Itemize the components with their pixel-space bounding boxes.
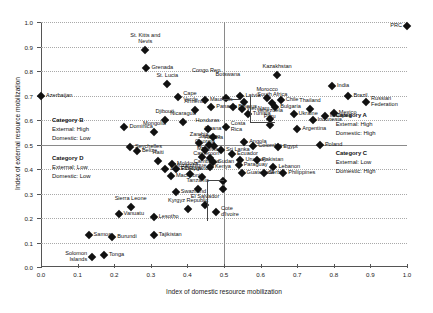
x-tick-label: 0.1 [73, 271, 82, 278]
data-point-label: Vanuatu [124, 211, 144, 217]
x-tick [78, 264, 79, 268]
category-b-external: External: High [52, 125, 91, 134]
data-point-label: Haiti [153, 150, 164, 156]
data-point [293, 125, 301, 133]
data-point-label: Argentina [302, 126, 326, 132]
reference-line-horizontal [41, 145, 407, 146]
y-tick-label: 0.1 [24, 239, 33, 246]
category-a-title: Category A [336, 111, 376, 120]
plot-area: 0.00.10.20.30.40.50.60.70.80.91.00.00.10… [41, 22, 407, 267]
data-point-label: Ukraine [299, 111, 318, 117]
category-d-external: External: Low [52, 163, 91, 172]
x-tick-label: 0.3 [146, 271, 155, 278]
data-point-label: Uganda [192, 166, 212, 172]
data-point [279, 169, 287, 177]
x-tick-label: 0.6 [256, 271, 265, 278]
category-a-domestic: Domestic: High [336, 129, 376, 138]
annotation-category-c: Category C External: Low Domestic: High [336, 149, 376, 176]
x-tick [114, 264, 115, 268]
data-point [222, 123, 230, 131]
data-point [88, 252, 96, 260]
x-tick [297, 264, 298, 268]
x-tick [334, 264, 335, 268]
x-tick [151, 264, 152, 268]
data-point [308, 116, 316, 124]
data-point [149, 213, 157, 221]
data-point-label: Honduras [195, 118, 219, 124]
data-point-label: Azerbaijan [46, 93, 72, 99]
y-tick-label: 0.9 [24, 43, 33, 50]
y-tick-label: 0.6 [24, 117, 33, 124]
data-point-label: Mongolia [143, 121, 166, 127]
data-point-label: SolomonIslands [65, 251, 87, 263]
data-point [362, 98, 370, 106]
data-point [154, 157, 162, 165]
leader-line-cambodia [207, 180, 224, 221]
leader-line-congo [250, 97, 275, 124]
data-point [328, 81, 336, 89]
x-tick [41, 264, 42, 268]
x-tick [370, 264, 371, 268]
data-point-label: Nicaragua [170, 111, 196, 117]
x-tick-label: 0.0 [37, 271, 46, 278]
data-point-label: Tanzania [186, 178, 208, 184]
category-d-domestic: Domestic: Low [52, 172, 91, 181]
y-tick [37, 22, 41, 23]
y-tick-label: 0.8 [24, 68, 33, 75]
y-tick-label: 0.4 [24, 166, 33, 173]
x-tick-label: 0.4 [183, 271, 192, 278]
y-tick [37, 71, 41, 72]
data-point-label: St. Kitts andNevis [130, 33, 160, 45]
y-tick-label: 0.3 [24, 190, 33, 197]
y-tick-label: 0.7 [24, 92, 33, 99]
data-point [114, 209, 122, 217]
y-tick [37, 169, 41, 170]
data-point [171, 187, 179, 195]
data-point [174, 92, 182, 100]
data-point-label: St. Lucia [156, 73, 178, 79]
x-tick [261, 264, 262, 268]
y-tick-label: 0.0 [24, 264, 33, 271]
data-point [273, 71, 281, 79]
data-point-label: Poland [325, 142, 342, 148]
y-tick [37, 243, 41, 244]
data-point [163, 80, 171, 88]
scatter-chart: 0.00.10.20.30.40.50.60.70.80.91.00.00.10… [0, 0, 433, 313]
data-point-label: India [337, 83, 349, 89]
data-point [120, 123, 128, 131]
data-point [316, 141, 324, 149]
data-point-label: Cambodia [194, 159, 220, 165]
data-point-label: Grenada [151, 65, 173, 71]
data-point [37, 91, 45, 99]
data-point-label: Bulgaria [280, 104, 301, 110]
data-point [344, 91, 352, 99]
annotation-category-d: Category D External: Low Domestic: Low [52, 154, 91, 181]
x-tick-label: 0.9 [366, 271, 375, 278]
data-point-label: Cameroon [193, 151, 219, 157]
data-point [84, 231, 92, 239]
data-point-label: Tajikistan [159, 232, 182, 238]
data-point [289, 110, 297, 118]
y-tick [37, 218, 41, 219]
x-tick-label: 0.2 [110, 271, 119, 278]
annotation-category-a: Category A External: High Domestic: High [336, 111, 376, 138]
data-point-label: Armenia [184, 99, 205, 105]
data-point-label: Philippines [288, 170, 315, 176]
data-point-label: Sierra Leone [115, 196, 147, 202]
data-point-label: Paraguay [244, 162, 268, 168]
category-b-domestic: Domestic: Low [52, 134, 91, 143]
data-point-label: Tonga [109, 252, 124, 258]
data-point [167, 172, 175, 180]
x-tick-label: 0.7 [293, 271, 302, 278]
category-c-title: Category C [336, 149, 376, 158]
data-point-label: Lesotho [159, 214, 179, 220]
x-tick-label: 0.8 [329, 271, 338, 278]
y-tick-label: 1.0 [24, 19, 33, 26]
y-tick-label: 0.2 [24, 215, 33, 222]
data-point [207, 102, 215, 110]
data-point-label: Egypt [283, 144, 297, 150]
data-point-label: RussianFederation [371, 96, 398, 108]
x-axis-title: Index of domestic resource mobilization [41, 288, 407, 295]
category-b-title: Category B [52, 116, 91, 125]
data-point [100, 251, 108, 259]
